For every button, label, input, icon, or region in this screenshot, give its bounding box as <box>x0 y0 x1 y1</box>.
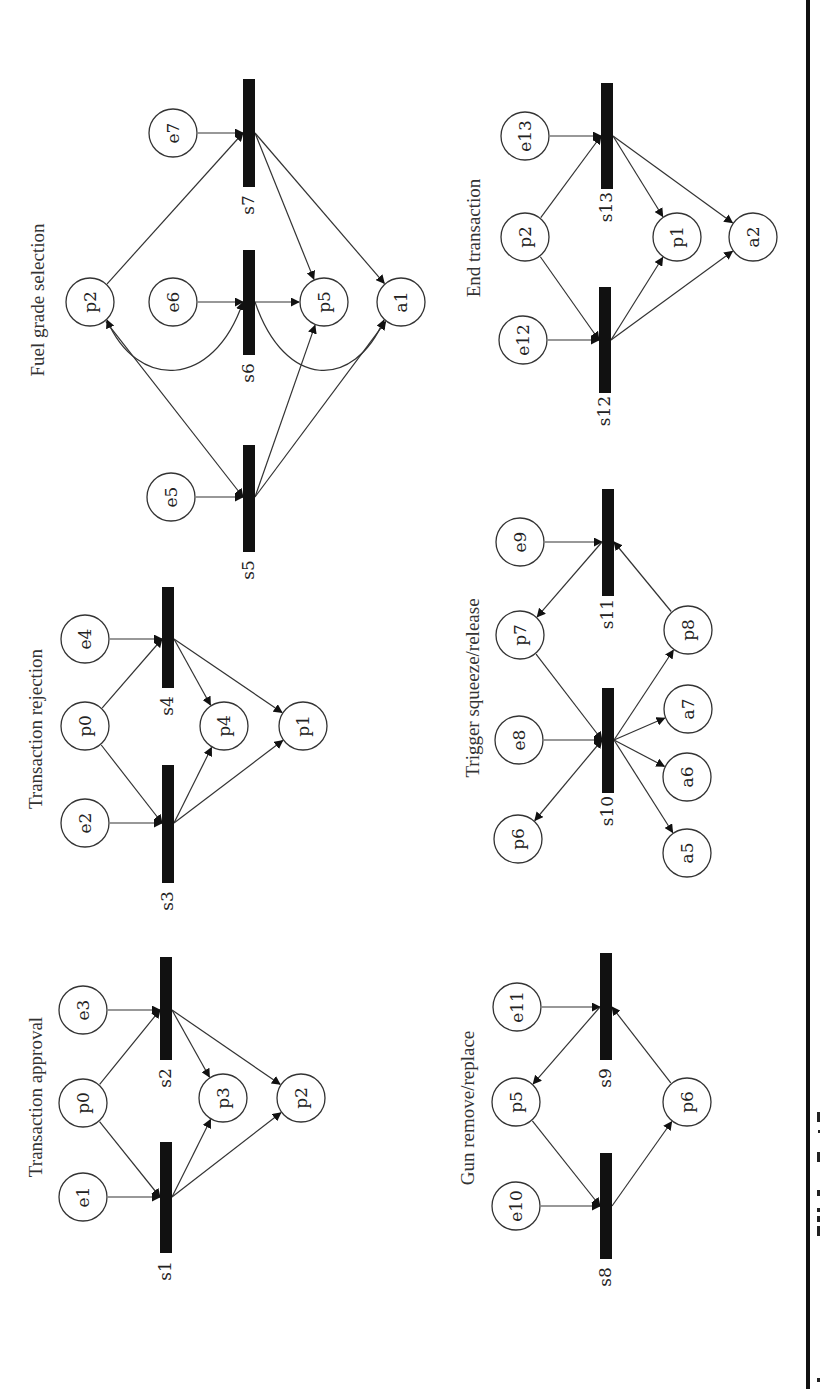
arc-s10-to-a5 <box>614 740 673 833</box>
place-p5: p5 <box>300 278 348 326</box>
transition-s9 <box>600 953 612 1060</box>
place-label: p8 <box>678 619 698 641</box>
arc-p5-to-s8 <box>532 1121 600 1206</box>
place-e1: e1 <box>59 1173 107 1221</box>
arc-s8-to-p6 <box>612 1122 672 1206</box>
panel-transaction-rejection: Transaction rejection <box>25 648 46 809</box>
place-p1: p1 <box>279 702 327 750</box>
arc-s7-to-a1 <box>255 133 384 283</box>
place-label: e12 <box>513 324 533 356</box>
panel-title: Transaction rejection <box>25 648 46 809</box>
arc-s2-to-p3 <box>172 1010 209 1077</box>
place-e8: e8 <box>495 716 543 764</box>
place-a2: a2 <box>729 213 777 261</box>
place-label: p7 <box>510 624 530 646</box>
place-e13: e13 <box>501 112 549 160</box>
arc-s3-to-p4 <box>174 748 212 823</box>
place-a1: a1 <box>377 278 425 326</box>
clipped-caption-fragments <box>817 1112 820 1382</box>
petri-net-figure: s1s2s3s4s5s6s7s8s9s10s11s12s13 e1p0e3p3p… <box>0 0 825 1389</box>
transition-s2 <box>160 957 172 1060</box>
place-e9: e9 <box>496 518 544 566</box>
place-a7: a7 <box>664 685 712 733</box>
arc-p2-to-s5 <box>106 321 243 497</box>
arc-s1-to-p3 <box>172 1120 211 1197</box>
place-e11: e11 <box>493 983 541 1031</box>
place-label: p1 <box>667 226 687 248</box>
arc-s4-to-p1 <box>174 639 282 712</box>
place-label: e13 <box>515 120 535 152</box>
place-p6: p6 <box>494 815 542 863</box>
transition-s7 <box>243 79 255 187</box>
place-label: e11 <box>507 991 527 1023</box>
place-label: e3 <box>73 1000 93 1021</box>
transition-label: s6 <box>238 363 258 383</box>
place-label: a6 <box>677 767 697 788</box>
panel-title: Gun remove/replace <box>457 1031 478 1186</box>
transition-label: s8 <box>595 1267 615 1287</box>
place-e7: e7 <box>149 109 197 157</box>
transition-label: s10 <box>597 796 617 826</box>
arc-p8-to-s11 <box>614 542 671 612</box>
panel-fuel-grade-selection: Fuel grade selection <box>27 223 48 377</box>
arc-p0-to-s2 <box>100 1010 160 1084</box>
place-label: e6 <box>163 292 183 313</box>
transition-s6 <box>243 250 255 355</box>
panel-title: Transaction approval <box>25 1017 46 1177</box>
arc-p6-to-s10 <box>535 740 602 821</box>
arc-s3-to-p1 <box>174 741 283 823</box>
place-p2: p2 <box>277 1074 325 1122</box>
arc-s2-to-p2 <box>172 1010 280 1084</box>
place-label: p4 <box>214 715 234 737</box>
panel-end-transaction: End transaction <box>463 178 484 297</box>
transition-s3 <box>162 765 174 883</box>
transition-label: s4 <box>157 696 177 716</box>
transition-label: s5 <box>238 560 258 580</box>
place-p1: p1 <box>653 213 701 261</box>
transition-label: s9 <box>595 1068 615 1088</box>
arc-s1-to-p2 <box>172 1113 281 1197</box>
panel-title: Trigger squeeze/release <box>462 598 483 777</box>
arc-p0-to-s4 <box>102 639 162 708</box>
transition-label: s12 <box>594 396 614 426</box>
place-p4: p4 <box>200 702 248 750</box>
place-label: p3 <box>213 1087 233 1109</box>
panel-transaction-approval: Transaction approval <box>25 1017 46 1177</box>
transition-label: s1 <box>155 1261 175 1281</box>
transition-label: s3 <box>157 891 177 911</box>
figure-page: s1s2s3s4s5s6s7s8s9s10s11s12s13 e1p0e3p3p… <box>0 0 825 1389</box>
place-label: p1 <box>293 715 313 737</box>
transition-s12 <box>599 287 611 393</box>
arc-p0-to-s3 <box>101 745 162 823</box>
place-label: a7 <box>678 699 698 720</box>
arc-s13-to-a2 <box>613 136 732 223</box>
transition-label: s13 <box>596 192 616 222</box>
place-e5: e5 <box>147 473 195 521</box>
place-label: a2 <box>743 227 763 248</box>
place-p5: p5 <box>492 1078 540 1126</box>
transition-s1 <box>160 1142 172 1253</box>
place-p0: p0 <box>61 702 109 750</box>
place-p3: p3 <box>199 1074 247 1122</box>
arc-p2-to-s12 <box>540 257 599 340</box>
place-label: p6 <box>677 1091 697 1113</box>
place-e3: e3 <box>59 986 107 1034</box>
place-label: a1 <box>391 292 411 313</box>
place-p8: p8 <box>664 606 712 654</box>
arc-s11-to-p7 <box>537 542 602 617</box>
transition-s5 <box>243 445 255 552</box>
place-p7: p7 <box>496 611 544 659</box>
transition-s4 <box>162 587 174 688</box>
place-e10: e10 <box>492 1182 540 1230</box>
arc-p7-to-s10 <box>536 654 602 740</box>
place-label: e4 <box>75 629 95 650</box>
place-label: e10 <box>506 1190 526 1222</box>
place-label: e9 <box>510 532 530 553</box>
arc-p2-to-s13 <box>541 136 601 218</box>
place-label: p5 <box>506 1091 526 1113</box>
panel-title: End transaction <box>463 178 484 297</box>
place-p6: p6 <box>663 1078 711 1126</box>
arc-p6-to-s9 <box>612 1007 671 1083</box>
place-label: e1 <box>73 1187 93 1208</box>
arc-s5-to-p5 <box>255 325 315 497</box>
